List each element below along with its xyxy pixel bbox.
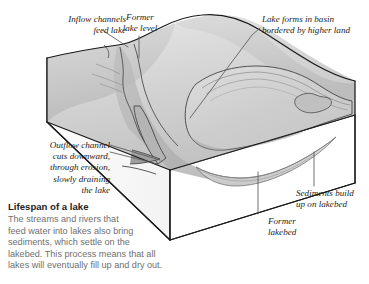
label-sediments: Sediments build up on lakebed [296,188,368,210]
caption-block: Lifespan of a lake The streams and river… [8,201,198,272]
label-lake-basin: Lake forms in basin bordered by higher l… [262,14,366,36]
label-former-lake-level: Former lake level [108,12,172,34]
diagram-stage: Inflow channels feed lake Former lake le… [0,0,369,284]
label-former-lakebed: Former lakebed [268,216,328,238]
label-outflow-channel: Outflow channel cuts downward, through e… [6,140,110,196]
caption-title: Lifespan of a lake [8,201,198,213]
caption-body: The streams and rivers that feed water i… [8,214,198,272]
